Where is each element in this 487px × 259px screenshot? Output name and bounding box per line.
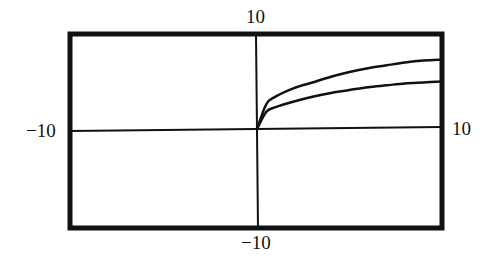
y-axis [256, 34, 258, 228]
lower-curve [257, 82, 442, 130]
y-max-label: 10 [246, 7, 265, 26]
y-min-label: −10 [241, 233, 271, 252]
x-min-label: −10 [26, 121, 56, 140]
curves [257, 60, 442, 129]
graph-window [0, 0, 487, 259]
x-max-label: 10 [452, 119, 471, 138]
upper-curve [257, 60, 442, 129]
